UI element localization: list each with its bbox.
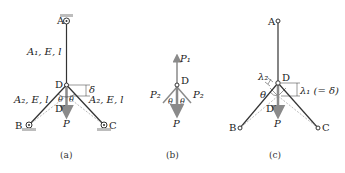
label-load-p-c: P [273, 118, 281, 129]
label-node-d-c: D [282, 72, 290, 83]
figure-c: A D λ₂ λ₁ (= δ) θ D′ P B C (c) [229, 16, 339, 160]
node-d-b [175, 83, 179, 87]
label-p2-left: P₂ [149, 89, 161, 100]
node-c-c [316, 126, 320, 130]
node-a-c [276, 19, 280, 23]
label-node-d-prime: D′ [55, 103, 66, 114]
caption-b: (b) [166, 150, 179, 160]
label-theta-b-left: θ [168, 97, 173, 106]
label-node-b: B [15, 120, 22, 131]
node-d-c [276, 81, 280, 85]
caption-a: (a) [60, 150, 72, 160]
label-node-a: A [56, 15, 65, 26]
label-node-c: C [109, 120, 117, 131]
label-node-d: D [55, 79, 63, 90]
node-b-c [238, 126, 242, 130]
label-bar-cd: A₂, E, l [88, 94, 123, 105]
bar-cd [67, 85, 105, 125]
label-node-c-c: C [322, 122, 330, 133]
label-theta-c: θ [260, 89, 266, 100]
label-node-d-prime-c: D′ [266, 103, 277, 114]
label-p1: P₁ [179, 53, 191, 64]
truss-diagram: A A₁, E, l D δ A₂, E, l A₂, E, l θ θ D′ … [0, 0, 345, 173]
label-node-b-c: B [229, 122, 236, 133]
label-node-d-b: D [181, 75, 189, 86]
label-bar-bd: A₂, E, l [13, 94, 48, 105]
node-d [65, 83, 69, 87]
label-node-a-c: A [267, 16, 276, 27]
label-theta-right: θ [69, 95, 74, 104]
figure-b: P₁ D P₂ P₂ θ θ P (b) [149, 53, 204, 160]
label-load-p: P [62, 118, 70, 129]
label-lambda1: λ₁ (= δ) [299, 85, 339, 96]
label-bar-ad: A₁, E, l [26, 46, 61, 57]
label-lambda2: λ₂ [257, 71, 268, 82]
figure-a: A A₁, E, l D δ A₂, E, l A₂, E, l θ θ D′ … [13, 14, 123, 160]
label-theta-b-right: θ [180, 97, 185, 106]
label-p2-right: P₂ [192, 89, 204, 100]
label-load-p-b: P [172, 118, 180, 129]
caption-c: (c) [269, 150, 281, 160]
deformed-cd-c [278, 96, 318, 128]
